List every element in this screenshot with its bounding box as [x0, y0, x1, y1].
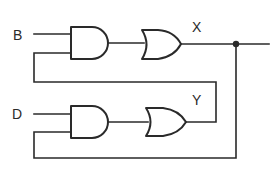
input-label-b: B [13, 27, 22, 43]
output-label-y: Y [192, 92, 202, 108]
and-gate-top [71, 27, 108, 59]
output-label-x: X [192, 19, 202, 35]
or-gate-top [142, 30, 181, 59]
input-label-d: D [12, 106, 22, 122]
logic-circuit-diagram: B D X Y [0, 0, 277, 171]
and-gate-bottom [71, 106, 108, 138]
wire-x-feedback [34, 44, 236, 158]
or-gate-bottom [146, 108, 186, 136]
junction-dot [233, 41, 239, 47]
wire-y-feedback [34, 53, 216, 122]
